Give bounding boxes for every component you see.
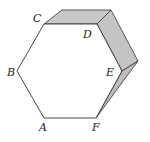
vertex-label-e: E [105, 66, 114, 79]
vertex-label-d: D [82, 28, 92, 41]
hexagon-diagram: C D B E A F [0, 0, 150, 142]
vertex-label-a: A [38, 121, 47, 134]
vertex-label-f: F [91, 121, 100, 134]
vertex-label-c: C [33, 12, 42, 25]
vertex-label-b: B [6, 66, 15, 79]
